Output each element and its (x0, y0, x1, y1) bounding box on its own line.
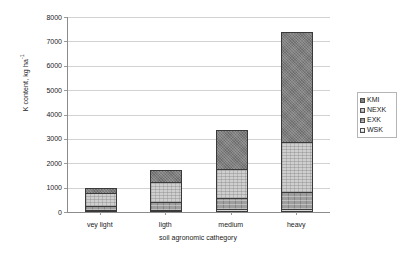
bar-stack[interactable] (85, 17, 117, 212)
y-tick-label: 0 (24, 209, 62, 216)
x-tick-label: medium (198, 221, 264, 229)
bar-segment-nexk[interactable] (85, 193, 117, 207)
legend-item-nexk[interactable]: NEXK (360, 105, 394, 115)
y-tick-label: 5000 (24, 87, 62, 94)
bar-segment-nexk[interactable] (150, 182, 182, 202)
x-tick-label: heavy (264, 221, 330, 229)
legend-label: EXK (367, 116, 381, 124)
legend-swatch-icon (360, 108, 365, 113)
legend-label: KMI (367, 96, 379, 104)
chart-figure: K content, kg ha-1 010002000300040005000… (0, 0, 401, 258)
legend-item-exk[interactable]: EXK (360, 115, 394, 125)
x-axis-ticks: vey lightligthmediumheavy (67, 212, 329, 230)
legend-item-kmi[interactable]: KMI (360, 95, 394, 105)
bar-segment-nexk[interactable] (216, 169, 248, 198)
legend-swatch-icon (360, 128, 365, 133)
y-tick-label: 7000 (24, 38, 62, 45)
chart-legend: KMINEXKEXKWSK (357, 92, 397, 138)
legend-swatch-icon (360, 118, 365, 123)
x-tick-mark (165, 212, 166, 215)
x-tick-mark (100, 212, 101, 215)
bar-segment-kmi[interactable] (85, 188, 117, 193)
legend-label: NEXK (367, 106, 386, 114)
y-tick-label: 2000 (24, 160, 62, 167)
bar-stack[interactable] (216, 17, 248, 212)
legend-swatch-icon (360, 98, 365, 103)
y-tick-label: 8000 (24, 14, 62, 21)
y-tick-label: 4000 (24, 111, 62, 118)
x-tick-mark (296, 212, 297, 215)
legend-item-wsk[interactable]: WSK (360, 125, 394, 135)
x-tick-mark (231, 212, 232, 215)
x-tick-label: vey light (67, 221, 133, 229)
bar-segment-exk[interactable] (281, 192, 313, 209)
bar-segment-exk[interactable] (216, 198, 248, 209)
bar-segment-kmi[interactable] (216, 130, 248, 169)
x-axis-title: soil agronomic cathegory (67, 234, 329, 241)
y-tick-label: 3000 (24, 135, 62, 142)
y-tick-label: 1000 (24, 184, 62, 191)
y-axis-ticks: 010002000300040005000600070008000 (24, 17, 62, 212)
bar-segment-kmi[interactable] (150, 170, 182, 182)
bar-stack[interactable] (150, 17, 182, 212)
bar-segment-exk[interactable] (150, 202, 182, 210)
bar-segment-kmi[interactable] (281, 32, 313, 142)
y-tick-label: 6000 (24, 62, 62, 69)
bar-segment-nexk[interactable] (281, 142, 313, 192)
plot-area (67, 17, 330, 213)
bar-stack[interactable] (281, 17, 313, 212)
bar-segment-exk[interactable] (85, 206, 117, 210)
legend-label: WSK (367, 126, 383, 134)
bars-layer (68, 17, 330, 212)
x-tick-label: ligth (133, 221, 199, 229)
